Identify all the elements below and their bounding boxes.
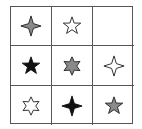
four-point-star-gray-icon xyxy=(20,15,42,37)
cell-r2-c3 xyxy=(93,46,134,86)
cell-r2-c2 xyxy=(52,46,93,86)
cell-r3-c2 xyxy=(52,86,93,125)
cell-r3-c1 xyxy=(11,86,52,125)
six-point-star-gray-icon xyxy=(61,55,83,77)
cell-r1-c1 xyxy=(11,7,52,46)
cell-r1-c2 xyxy=(52,7,93,46)
four-point-star-black-icon xyxy=(61,95,83,117)
puzzle-grid xyxy=(10,6,133,124)
cell-r1-c3-empty xyxy=(93,7,134,46)
cell-r3-c3 xyxy=(93,86,134,125)
four-point-star-white-icon xyxy=(103,55,125,77)
cell-r2-c1 xyxy=(11,46,52,86)
six-point-star-white-icon xyxy=(20,95,42,117)
five-point-star-black-icon xyxy=(20,55,42,77)
five-point-star-gray-icon xyxy=(103,95,125,117)
five-point-star-white-icon xyxy=(61,15,83,37)
